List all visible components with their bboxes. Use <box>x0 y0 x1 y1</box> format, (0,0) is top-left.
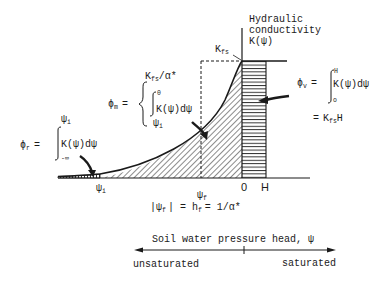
kfs-label: Kfs <box>215 44 229 56</box>
psi-f-label: ψf <box>197 190 207 202</box>
svg-text:Kfs/α*: Kfs/α* <box>145 71 177 83</box>
y-axis-title-line3: K(ψ) <box>249 36 273 47</box>
phi-v-region <box>242 61 266 178</box>
svg-text:=KfsH: =KfsH <box>313 113 343 125</box>
pressure-head-axis <box>134 246 336 254</box>
svg-text:K(ψ)dψ: K(ψ)dψ <box>333 79 369 90</box>
saturated-label: saturated <box>282 258 336 269</box>
svg-text:o: o <box>333 97 337 104</box>
phi-v-equation: ϕv= H K(ψ)dψ o =KfsH <box>297 68 369 125</box>
hydraulic-conductivity-diagram: Hydraulic conductivity K(ψ) Kfs ϕm= Kfs/… <box>0 0 392 286</box>
svg-text:-∞: -∞ <box>61 155 69 162</box>
psi-i-label: ψi <box>96 183 106 195</box>
svg-text:K(ψ)dψ: K(ψ)dψ <box>156 104 192 115</box>
svg-text:K(ψ)dψ: K(ψ)dψ <box>61 139 97 150</box>
svg-text:ϕv=: ϕv= <box>297 78 317 90</box>
svg-text:ϕm=: ϕm= <box>108 99 128 111</box>
arrow-phi-r-icon <box>80 156 96 177</box>
svg-text:ψi: ψi <box>61 114 71 126</box>
svg-text:ψi: ψi <box>153 118 163 130</box>
svg-text:H: H <box>334 68 338 75</box>
y-axis-title-line2: conductivity <box>249 25 321 36</box>
axis-title: Soil water pressure head, ψ <box>152 234 314 245</box>
svg-text:0: 0 <box>157 90 161 97</box>
svg-text:ϕr=: ϕr= <box>20 140 40 152</box>
y-axis-title-line1: Hydraulic <box>249 14 303 25</box>
unsaturated-label: unsaturated <box>133 259 199 270</box>
zero-label: 0 <box>241 181 247 193</box>
phi-r-equation: ϕr= ψi K(ψ)dψ -∞ <box>20 114 97 162</box>
h-label: H <box>261 181 269 193</box>
psi-f-relation: |ψf| = hf= 1/α* <box>150 202 241 214</box>
phi-m-equation: ϕm= Kfs/α* 0 K(ψ)dψ ψi <box>108 71 192 130</box>
